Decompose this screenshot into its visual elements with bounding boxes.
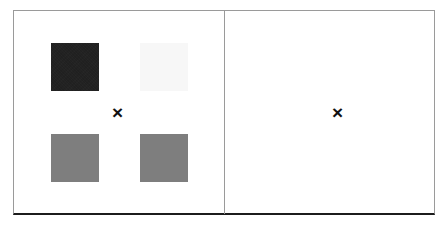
right-panel: × <box>225 11 435 214</box>
x-marker: × <box>332 103 343 122</box>
swatch-top-right <box>140 43 188 91</box>
stimulus-frame: × × <box>13 10 435 215</box>
x-marker: × <box>112 103 123 122</box>
left-panel: × <box>14 11 224 214</box>
swatch-bottom-right <box>140 134 188 182</box>
swatch-bottom-left <box>51 134 99 182</box>
swatch-top-left <box>51 43 99 91</box>
